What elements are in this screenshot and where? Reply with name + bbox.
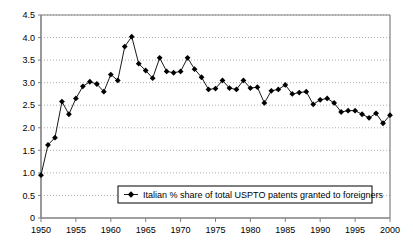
x-tick-label: 2000 [380,225,400,235]
x-tick-label: 1955 [66,225,86,235]
x-tick-label: 1965 [136,225,156,235]
legend: Italian % share of total USPTO patents g… [118,186,383,203]
y-tick-label: 3.5 [22,55,35,65]
x-tick-label: 1960 [101,225,121,235]
x-tick-label: 1975 [205,225,225,235]
x-tick-label: 1995 [345,225,365,235]
y-tick-label: 4.5 [22,10,35,20]
y-tick-label: 2.0 [22,123,35,133]
legend-label: Italian % share of total USPTO patents g… [143,190,383,200]
x-tick-label: 1990 [310,225,330,235]
y-tick-label: 2.5 [22,100,35,110]
x-tick-label: 1985 [275,225,295,235]
line-chart: 00.51.01.52.02.53.03.54.04.5 19501955196… [0,0,413,250]
y-tick-label: 0.5 [22,191,35,201]
chart-figure: 00.51.01.52.02.53.03.54.04.5 19501955196… [0,0,413,250]
y-tick-label: 1.0 [22,168,35,178]
y-tick-label: 0 [30,213,35,223]
y-tick-label: 1.5 [22,146,35,156]
y-tick-label: 3.0 [22,78,35,88]
y-tick-label: 4.0 [22,33,35,43]
x-tick-label: 1980 [240,225,260,235]
x-tick-label: 1970 [171,225,191,235]
x-tick-label: 1950 [31,225,51,235]
